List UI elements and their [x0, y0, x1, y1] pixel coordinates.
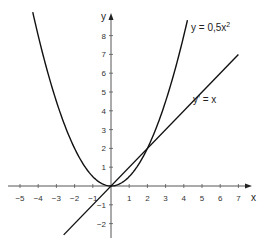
function-plot: −5−4−3−2−11234567−2−112345678 x y y = 0,… — [0, 0, 265, 243]
y-tick-label: 1 — [102, 163, 107, 172]
y-tick-label: 7 — [102, 50, 107, 59]
y-tick-label: 3 — [102, 126, 107, 135]
derivative-line — [64, 54, 239, 234]
y-axis-label: y — [101, 11, 106, 22]
x-axis-arrow-icon — [245, 184, 252, 189]
x-tick-label: −2 — [70, 194, 80, 203]
x-tick-label: 7 — [236, 194, 241, 203]
y-tick-label: −2 — [97, 220, 107, 229]
curves — [33, 12, 239, 235]
y-tick-label: 6 — [102, 69, 107, 78]
y-tick-label: 2 — [102, 144, 107, 153]
line-label: y' = x — [193, 94, 216, 105]
parabola-curve — [33, 12, 188, 186]
parabola-label-main: y = 0,5x — [191, 22, 226, 33]
x-tick-label: −3 — [52, 194, 62, 203]
y-axis-arrow-icon — [109, 13, 114, 20]
axes — [8, 13, 252, 238]
y-tick-label: −1 — [97, 201, 107, 210]
parabola-label-exponent: 2 — [226, 21, 230, 28]
x-tick-label: 2 — [145, 194, 150, 203]
x-tick-label: 1 — [127, 194, 132, 203]
x-tick-label: 5 — [200, 194, 205, 203]
y-tick-label: 4 — [102, 107, 107, 116]
parabola-label: y = 0,5x2 — [191, 21, 230, 33]
tick-labels: −5−4−3−2−11234567−2−112345678 — [15, 32, 241, 229]
x-tick-label: −4 — [34, 194, 44, 203]
x-tick-label: 3 — [163, 194, 168, 203]
y-tick-label: 5 — [102, 88, 107, 97]
y-tick-label: 8 — [102, 32, 107, 41]
x-axis-label: x — [251, 192, 256, 203]
x-tick-label: 4 — [182, 194, 187, 203]
x-tick-label: −5 — [15, 194, 25, 203]
x-tick-label: 6 — [218, 194, 223, 203]
